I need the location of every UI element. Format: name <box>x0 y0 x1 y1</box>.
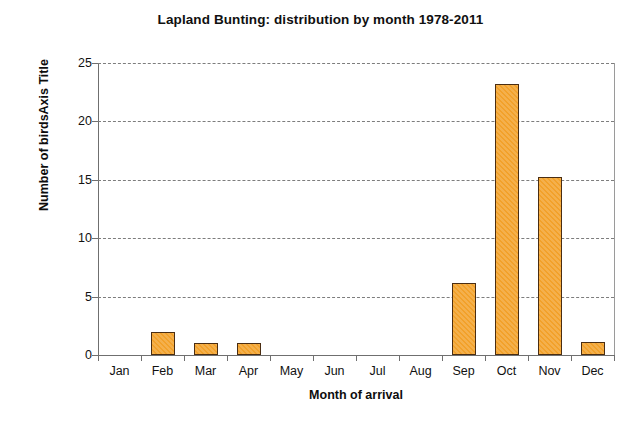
x-axis-tick-label-feb: Feb <box>152 364 174 378</box>
y-axis-tick-mark <box>92 121 98 122</box>
gridline <box>98 121 614 122</box>
y-axis-title: Number of birdsAxis Title <box>37 0 51 275</box>
bar-chart-figure: Lapland Bunting: distribution by month 1… <box>0 0 641 423</box>
x-axis-tick-mark <box>98 355 99 361</box>
x-axis-tick-mark <box>270 355 271 361</box>
x-axis-tick-mark <box>442 355 443 361</box>
x-axis-tick-label-mar: Mar <box>195 364 217 378</box>
bar-feb <box>151 332 175 355</box>
x-axis-tick-mark <box>614 355 615 361</box>
bar-nov <box>538 177 562 355</box>
x-axis-tick-mark <box>571 355 572 361</box>
y-axis-tick-label: 10 <box>56 231 92 245</box>
x-axis-title: Month of arrival <box>98 388 614 402</box>
y-axis-tick-label: 15 <box>56 173 92 187</box>
x-axis-tick-label-apr: Apr <box>239 364 258 378</box>
gridline <box>98 63 614 64</box>
y-axis-tick-mark <box>92 180 98 181</box>
x-axis-tick-label-jun: Jun <box>324 364 344 378</box>
y-axis-tick-label: 0 <box>56 348 92 362</box>
x-axis-tick-mark <box>141 355 142 361</box>
x-axis-tick-mark <box>184 355 185 361</box>
x-axis-tick-label-aug: Aug <box>409 364 431 378</box>
x-axis-tick-mark <box>356 355 357 361</box>
y-axis-tick-label: 5 <box>56 290 92 304</box>
x-axis-tick-mark <box>528 355 529 361</box>
y-axis-tick-label: 20 <box>56 114 92 128</box>
x-axis-tick-mark <box>227 355 228 361</box>
x-axis-tick-label-dec: Dec <box>581 364 603 378</box>
bar-mar <box>194 343 218 355</box>
x-axis-tick-label-nov: Nov <box>538 364 560 378</box>
x-axis-tick-labels: JanFebMarAprMayJunJulAugSepOctNovDec <box>98 364 614 382</box>
y-axis-tick-mark <box>92 297 98 298</box>
x-axis-tick-marks <box>98 355 615 361</box>
x-axis-tick-label-jan: Jan <box>109 364 129 378</box>
bar-oct <box>495 84 519 355</box>
x-axis-tick-label-may: May <box>280 364 304 378</box>
y-axis-tick-mark <box>92 238 98 239</box>
y-axis-tick-label: 25 <box>56 56 92 70</box>
plot-area <box>98 63 615 355</box>
x-axis-tick-mark <box>399 355 400 361</box>
x-axis-tick-mark <box>313 355 314 361</box>
y-axis-tick-labels: 0510152025 <box>52 0 92 423</box>
y-axis-tick-mark <box>92 355 98 356</box>
bar-dec <box>581 342 605 355</box>
x-axis-tick-label-sep: Sep <box>452 364 474 378</box>
x-axis-tick-label-jul: Jul <box>370 364 386 378</box>
x-axis-tick-mark <box>485 355 486 361</box>
bar-sep <box>452 283 476 355</box>
bar-apr <box>237 343 261 355</box>
chart-title: Lapland Bunting: distribution by month 1… <box>0 12 641 27</box>
x-axis-tick-label-oct: Oct <box>497 364 516 378</box>
y-axis-tick-mark <box>92 63 98 64</box>
